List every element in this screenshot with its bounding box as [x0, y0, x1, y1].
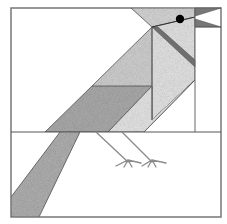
bird-quilt-illustration: [0, 0, 227, 224]
eye-icon: [176, 15, 184, 23]
